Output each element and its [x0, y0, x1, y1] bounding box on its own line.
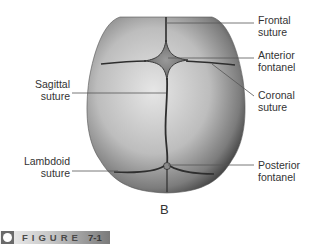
- label-coronal-suture: Coronal suture: [258, 89, 295, 113]
- figure-badge-number: 7-1: [88, 231, 102, 244]
- label-lambdoid-suture: Lambdoid suture: [10, 155, 70, 179]
- posterior-fontanel-shape: [164, 163, 171, 170]
- label-anterior-fontanel: Anterior fontanel: [258, 49, 295, 73]
- circle-bullet-icon: [1, 231, 14, 244]
- figure-badge-label: FIGURE: [22, 231, 82, 244]
- label-frontal-suture: Frontal suture: [258, 14, 291, 38]
- label-sagittal-suture: Sagittal suture: [20, 78, 70, 102]
- panel-letter: B: [160, 202, 169, 217]
- figure-badge: FIGURE 7-1: [0, 231, 110, 244]
- label-posterior-fontanel: Posterior fontanel: [258, 159, 300, 183]
